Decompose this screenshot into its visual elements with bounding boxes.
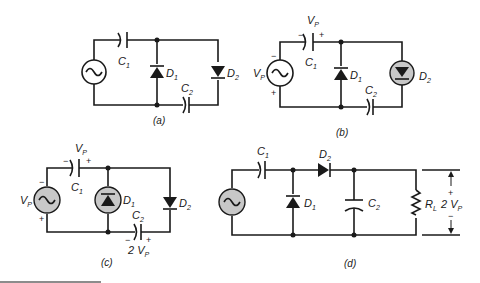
label-d2: D2 — [227, 67, 239, 81]
source-minus: − — [39, 177, 44, 187]
caption-c: (c) — [101, 257, 113, 268]
c1-plus: + — [86, 156, 91, 166]
c1-minus: − — [63, 156, 68, 166]
caption-b: (b) — [336, 127, 348, 138]
ac-source-icon — [267, 60, 293, 86]
diode-d2 — [211, 66, 225, 78]
ac-source-highlighted-icon — [34, 187, 60, 213]
ac-source-icon — [82, 60, 106, 84]
label-d1: D1 — [123, 194, 135, 208]
source-plus: + — [39, 214, 44, 224]
circuit-c: VP − + C1 − + VP D1 D2 C2 − + 2 VP (c) — [20, 142, 191, 268]
label-c1: C1 — [257, 145, 269, 159]
output-plus: + — [448, 188, 453, 198]
label-c2-voltage: 2 VP — [127, 244, 150, 258]
label-c1-voltage: VP — [75, 142, 87, 156]
label-c2: C2 — [181, 82, 193, 96]
label-c2: C2 — [368, 197, 380, 211]
label-c1-voltage: VP — [307, 14, 319, 28]
capacitor-c2 — [134, 224, 141, 240]
c2-plus: + — [146, 235, 151, 245]
caption-d: (d) — [344, 258, 356, 269]
label-c2: C2 — [365, 84, 377, 98]
c1-minus: − — [298, 30, 303, 40]
ac-source-highlighted-icon — [219, 189, 245, 215]
circuit-d: C1 D2 D1 C2 RL + 2 VP − (d) — [219, 145, 463, 269]
label-vp: VP — [20, 194, 32, 208]
circuit-a: C1 D1 D2 C2 (a) — [82, 32, 239, 126]
label-c1: C1 — [305, 56, 317, 70]
source-minus: − — [271, 51, 276, 61]
label-c2: C2 — [132, 209, 144, 223]
label-d2: D2 — [419, 70, 431, 84]
voltage-doubler-diagram: C1 D1 D2 C2 (a) — [0, 0, 480, 283]
capacitor-c2 — [183, 97, 189, 113]
source-plus: + — [271, 88, 276, 98]
diode-d1 — [286, 196, 300, 208]
circuit-b: VP − + C1 − + VP D1 D2 C2 (b) — [253, 14, 431, 138]
diode-d1 — [150, 66, 164, 78]
caption-a: (a) — [153, 115, 165, 126]
diode-d1-highlighted — [95, 187, 121, 213]
resistor-rl — [412, 190, 420, 215]
label-d2: D2 — [179, 197, 191, 211]
label-d2: D2 — [319, 148, 331, 162]
label-rl: RL — [425, 198, 437, 212]
label-c1: C1 — [118, 55, 130, 69]
label-d1: D1 — [350, 69, 362, 83]
diode-d2 — [318, 163, 330, 177]
label-vp: VP — [253, 67, 265, 81]
output-minus: − — [448, 211, 453, 221]
diode-d1 — [334, 68, 348, 80]
c1-plus: + — [319, 30, 324, 40]
capacitor-c1 — [258, 161, 265, 179]
label-output-voltage: 2 VP — [440, 198, 463, 212]
label-d1: D1 — [166, 67, 178, 81]
label-c1: C1 — [71, 181, 83, 195]
capacitor-c2 — [367, 99, 373, 115]
diode-d2 — [163, 197, 177, 209]
label-d1: D1 — [304, 197, 316, 211]
diode-d2-highlighted — [390, 61, 414, 85]
